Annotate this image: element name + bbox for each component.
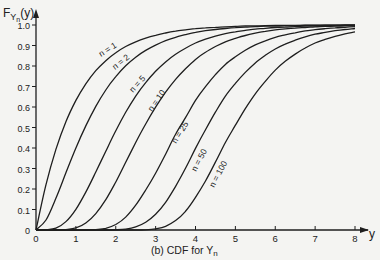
cdf-curve-n25 — [36, 27, 355, 230]
cdf-curve-n5 — [36, 25, 355, 230]
x-tick-label: 6 — [273, 233, 278, 244]
curve-labels: n = 1n = 2n = 5n = 10n = 25n = 50n = 100 — [97, 40, 230, 189]
x-tick-label: 3 — [153, 233, 158, 244]
cdf-curve-n10 — [36, 26, 355, 230]
cdf-curve-n1 — [36, 25, 355, 230]
y-tick-label: 0.7 — [17, 83, 30, 93]
chart-caption: (b) CDF for Yn — [151, 244, 218, 258]
curve-label: n = 10 — [145, 88, 167, 114]
y-tick-label: 0.3 — [17, 165, 30, 175]
x-tick-label: 1 — [73, 233, 78, 244]
x-axis-label: y — [369, 227, 375, 241]
y-tick-label: 0.2 — [17, 185, 30, 195]
y-tick-label: 0.1 — [17, 206, 30, 216]
curve-label: n = 100 — [207, 159, 229, 189]
curve-label: n = 25 — [169, 119, 190, 145]
x-tick-label: 7 — [312, 233, 317, 244]
x-tick-label: 2 — [113, 233, 118, 244]
y-tick-label: 0 — [25, 226, 30, 236]
x-tick-label: 5 — [233, 233, 238, 244]
y-tick-label: 0.5 — [17, 124, 30, 134]
curve-label: n = 50 — [189, 147, 209, 173]
y-tick-label: 0.6 — [17, 103, 30, 113]
curve-label: n = 1 — [97, 40, 119, 59]
y-tick-label: 0.4 — [17, 144, 30, 154]
chart-canvas: 00.10.20.30.40.50.60.70.80.91.0012345678… — [0, 0, 380, 260]
x-tick-label: 0 — [33, 233, 38, 244]
x-tick-label: 8 — [352, 233, 357, 244]
cdf-chart: 00.10.20.30.40.50.60.70.80.91.0012345678… — [0, 0, 380, 260]
x-axis-arrow-icon — [360, 227, 369, 233]
x-tick-label: 4 — [193, 233, 198, 244]
y-tick-label: 0.9 — [17, 42, 30, 52]
curves — [36, 25, 355, 230]
cdf-curve-n2 — [36, 25, 355, 230]
y-tick-label: 0.8 — [17, 62, 30, 72]
